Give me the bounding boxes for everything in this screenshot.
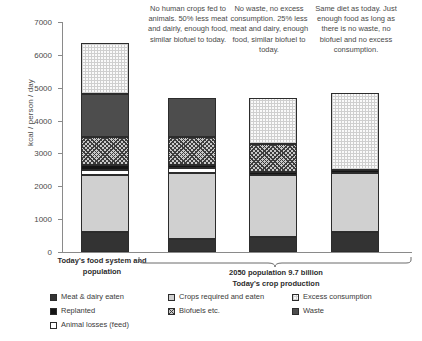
bar-segment-waste[interactable] — [168, 98, 216, 137]
stacked-bar[interactable] — [81, 43, 129, 252]
bar-segment-excess[interactable] — [249, 98, 297, 144]
legend-swatch-replant-icon — [50, 308, 57, 315]
bar-segment-biofuel[interactable] — [168, 137, 216, 165]
legend-item-biofuel[interactable]: Biofuels etc. — [168, 306, 220, 316]
legend-item-crops[interactable]: Crops required and eaten — [168, 292, 264, 302]
x-axis-line — [62, 252, 412, 253]
legend-swatch-crops-icon — [168, 294, 175, 301]
plot-area — [63, 22, 413, 252]
bar-column[interactable] — [81, 22, 129, 252]
y-tick-label: 3000 — [34, 149, 52, 158]
legend-label: Biofuels etc. — [179, 306, 220, 316]
legend-item-meat[interactable]: Meat & dairy eaten — [50, 292, 124, 302]
legend-label: Replanted — [61, 306, 95, 316]
category-label-today: Today's food system and population — [57, 256, 147, 277]
bar-segment-excess[interactable] — [81, 43, 129, 94]
bar-column[interactable] — [249, 22, 297, 252]
legend-label: Excess consumption — [303, 292, 372, 302]
chart-legend: Meat & dairy eatenCrops required and eat… — [0, 292, 422, 340]
bar-column[interactable] — [331, 22, 379, 252]
bar-segment-replant[interactable] — [81, 165, 129, 170]
bar-column[interactable] — [168, 22, 216, 252]
bar-segment-meat[interactable] — [331, 232, 379, 252]
bar-segment-losses[interactable] — [168, 168, 216, 173]
bar-segment-crops[interactable] — [81, 175, 129, 233]
y-tick-label: 6000 — [34, 50, 52, 59]
stacked-bar[interactable] — [249, 98, 297, 252]
legend-swatch-meat-icon — [50, 294, 57, 301]
legend-item-losses[interactable]: Animal losses (feed) — [50, 320, 129, 330]
bar-segment-replant[interactable] — [331, 170, 379, 173]
group-label-line1: 2050 population 9.7 billion — [190, 268, 362, 279]
y-axis-ticks: 01000200030004000500060007000 — [14, 22, 58, 252]
bar-segment-biofuel[interactable] — [249, 144, 297, 172]
legend-item-replant[interactable]: Replanted — [50, 306, 95, 316]
group-brace-icon — [138, 256, 412, 268]
stacked-bar-chart: kcal / person / day 01000200030004000500… — [0, 0, 422, 341]
y-tick-label: 1000 — [34, 215, 52, 224]
legend-label: Waste — [303, 306, 324, 316]
legend-label: Animal losses (feed) — [61, 320, 129, 330]
category-label-2050-group: 2050 population 9.7 billionToday's crop … — [190, 268, 362, 289]
bar-segment-crops[interactable] — [168, 173, 216, 239]
y-tick-label: 2000 — [34, 182, 52, 191]
legend-swatch-waste-icon — [292, 308, 299, 315]
legend-swatch-biofuel-icon — [168, 308, 175, 315]
bar-segment-crops[interactable] — [331, 173, 379, 232]
bar-segment-waste[interactable] — [81, 94, 129, 137]
bar-segment-meat[interactable] — [249, 237, 297, 252]
bar-segment-losses[interactable] — [81, 170, 129, 175]
legend-item-excess[interactable]: Excess consumption — [292, 292, 372, 302]
bar-segment-replant[interactable] — [168, 165, 216, 168]
bar-segment-meat[interactable] — [81, 232, 129, 252]
y-tick-label: 5000 — [34, 83, 52, 92]
bar-segment-excess[interactable] — [331, 93, 379, 170]
y-tick-label: 4000 — [34, 116, 52, 125]
stacked-bar[interactable] — [331, 93, 379, 252]
bar-segment-meat[interactable] — [168, 239, 216, 252]
y-tick-label: 0 — [48, 248, 52, 257]
stacked-bar[interactable] — [168, 98, 216, 252]
legend-swatch-losses-icon — [50, 322, 57, 329]
legend-item-waste[interactable]: Waste — [292, 306, 324, 316]
legend-swatch-excess-icon — [292, 294, 299, 301]
bar-segment-replant[interactable] — [249, 172, 297, 175]
legend-label: Meat & dairy eaten — [61, 292, 124, 302]
group-label-line2: Today's crop production — [190, 279, 362, 290]
legend-label: Crops required and eaten — [179, 292, 264, 302]
bar-segment-biofuel[interactable] — [81, 137, 129, 165]
bar-segment-crops[interactable] — [249, 175, 297, 237]
y-tick-label: 7000 — [34, 18, 52, 27]
